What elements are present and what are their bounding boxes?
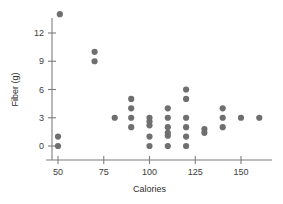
scatter-chart: 0369125075100125150CaloriesFiber (g) xyxy=(0,0,283,204)
data-point xyxy=(165,115,171,121)
data-point xyxy=(165,143,171,149)
data-point xyxy=(112,115,118,121)
data-point xyxy=(55,143,61,149)
data-point xyxy=(92,58,98,64)
x-axis-title: Calories xyxy=(133,184,167,194)
y-tick-label-9: 9 xyxy=(39,56,44,66)
data-point xyxy=(165,124,171,130)
data-point xyxy=(165,133,171,139)
data-point xyxy=(201,130,207,136)
data-point xyxy=(220,105,226,111)
data-point xyxy=(256,115,262,121)
data-point xyxy=(146,143,152,149)
x-tick-label-50: 50 xyxy=(53,167,63,177)
data-point xyxy=(165,105,171,111)
x-tick-label-75: 75 xyxy=(99,167,109,177)
y-tick-label-6: 6 xyxy=(39,85,44,95)
data-point xyxy=(183,86,189,92)
data-point xyxy=(238,115,244,121)
x-tick-label-100: 100 xyxy=(142,167,157,177)
x-tick-label-150: 150 xyxy=(233,167,248,177)
y-tick-label-3: 3 xyxy=(39,113,44,123)
data-point xyxy=(128,96,134,102)
data-point xyxy=(183,124,189,130)
data-point xyxy=(55,133,61,139)
data-point xyxy=(146,133,152,139)
x-tick-label-125: 125 xyxy=(188,167,203,177)
data-point xyxy=(183,115,189,121)
data-point xyxy=(57,11,63,17)
y-tick-label-0: 0 xyxy=(39,141,44,151)
y-axis-title: Fiber (g) xyxy=(10,72,20,106)
data-point xyxy=(220,115,226,121)
data-point xyxy=(146,122,152,128)
data-point xyxy=(128,105,134,111)
data-point xyxy=(128,124,134,130)
plot-area: 0369125075100125150CaloriesFiber (g) xyxy=(0,0,283,204)
y-tick-label-12: 12 xyxy=(34,28,44,38)
data-point xyxy=(183,133,189,139)
data-point xyxy=(220,124,226,130)
data-point xyxy=(183,143,189,149)
data-point xyxy=(183,96,189,102)
data-point xyxy=(128,115,134,121)
data-point xyxy=(92,49,98,55)
